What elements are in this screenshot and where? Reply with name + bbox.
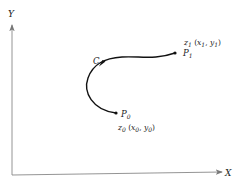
x-axis <box>12 172 222 175</box>
y-axis-label: Y <box>8 9 15 19</box>
curve-c <box>87 53 175 113</box>
diagram-canvas: Y X C P0 z0 (x0, y0) z1 (x1, y1) P1 <box>0 0 240 181</box>
x-axis-label: X <box>224 168 232 178</box>
point-p0-coordinates: z0 (x0, y0) <box>117 123 155 133</box>
point-p1-label: P1 <box>182 48 193 59</box>
point-p1-dot <box>173 51 176 54</box>
point-p0-dot <box>114 111 117 114</box>
point-p1-coordinates: z1 (x1, y1) <box>183 38 221 48</box>
curve-label: C <box>93 56 100 66</box>
point-p0-label: P0 <box>120 109 131 120</box>
